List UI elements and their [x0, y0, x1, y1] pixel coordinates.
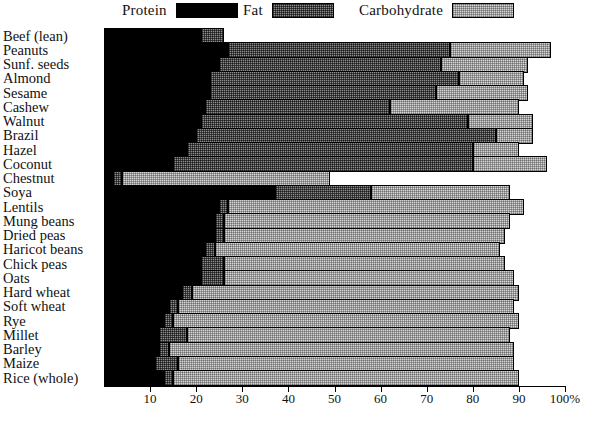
category-label: Beef (lean): [3, 29, 102, 44]
legend-label-protein: Protein: [122, 3, 167, 18]
x-axis-tick-label: 70: [420, 392, 433, 405]
x-axis-tick-label: 30: [236, 392, 249, 405]
category-label: Almond: [3, 71, 102, 86]
category-label: Sesame: [3, 86, 102, 101]
plot-area: [104, 28, 565, 386]
category-label: Chick peas: [3, 257, 102, 272]
legend-swatch-fat-icon: [272, 3, 334, 18]
x-axis-tick-label: 100%: [550, 392, 580, 405]
clipped-footer-text: [250, 414, 410, 424]
category-label: Haricot beans: [3, 242, 102, 257]
category-label: Lentils: [3, 200, 102, 215]
x-axis-tick-label: 50: [328, 392, 341, 405]
bar-segment-fat: [164, 370, 173, 386]
x-axis-tick-label: 60: [374, 392, 387, 405]
bar-segment-carbohydrate: [473, 156, 547, 172]
bar-segment-protein: [104, 370, 164, 386]
legend-label-carbohydrate: Carbohydrate: [359, 3, 443, 18]
x-axis-tick-label: 20: [190, 392, 203, 405]
x-axis-tick-label: 90: [512, 392, 525, 405]
bar-segment-carbohydrate: [173, 370, 519, 386]
x-axis-tick-label: 40: [282, 392, 295, 405]
legend-swatch-carbohydrate-icon: [452, 3, 514, 18]
chart-legend: Protein Fat Carbohydrate: [0, 0, 599, 22]
category-label: Hazel: [3, 143, 102, 158]
x-axis-tick-label: 80: [466, 392, 479, 405]
legend-item-protein: Protein: [122, 0, 238, 20]
nutrient-composition-chart: Protein Fat Carbohydrate Beef (lean)Pean…: [0, 0, 599, 424]
category-label: Soft wheat: [3, 299, 102, 314]
legend-swatch-protein-icon: [176, 3, 238, 18]
category-label: Rye: [3, 314, 102, 329]
category-label: Maize: [3, 356, 102, 371]
category-label: Brazil: [3, 128, 102, 143]
legend-item-carbohydrate: Carbohydrate: [359, 0, 514, 20]
category-label: Rice (whole): [3, 371, 102, 386]
legend-item-fat: Fat: [243, 0, 334, 20]
x-axis-tick-label: 10: [144, 392, 157, 405]
category-axis-labels: Beef (lean)PeanutsSunf. seedsAlmondSesam…: [0, 28, 104, 386]
legend-label-fat: Fat: [243, 3, 263, 18]
category-label: Soya: [3, 185, 102, 200]
